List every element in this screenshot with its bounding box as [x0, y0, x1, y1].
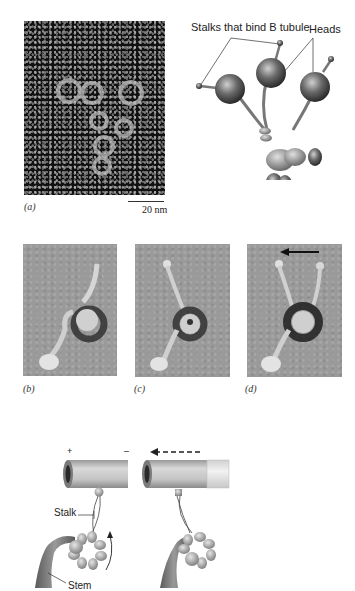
panel-c-label: (c)	[134, 383, 145, 394]
head-2	[256, 58, 286, 88]
microtubule-right	[142, 460, 229, 488]
panel-a-label: (a)	[24, 201, 36, 212]
scale-bar-label: 20 nm	[142, 204, 167, 215]
dynein-molecule-image-b	[23, 244, 117, 376]
scale-bar	[128, 201, 164, 202]
head-3	[300, 72, 330, 102]
rotation-arrow-icon	[106, 535, 112, 570]
microtubule-left	[63, 460, 128, 488]
dynein-schematic	[185, 30, 355, 180]
micrograph-panel-d	[247, 244, 342, 377]
micrograph-panel-b	[23, 244, 117, 376]
dynein-molecule-image-c	[135, 244, 230, 377]
panel-d-label: (d)	[245, 383, 257, 394]
head-1	[215, 74, 245, 104]
micrograph-panel-a	[24, 21, 165, 195]
dynein-molecule-image-d	[247, 244, 342, 377]
panel-b-label: (b)	[23, 383, 35, 394]
motor-ring-right	[178, 532, 216, 569]
stalk-tip-icon	[196, 83, 202, 89]
dynein-powerstroke-diagram	[30, 445, 240, 588]
micrograph-panel-c	[135, 244, 230, 377]
dynein-particles-image	[24, 21, 165, 195]
